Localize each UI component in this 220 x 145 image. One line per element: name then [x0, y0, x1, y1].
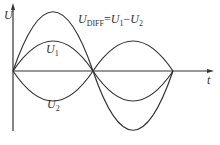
t-axis-label: t — [207, 74, 210, 86]
udiff-equation: UDIFF=U1−U2 — [78, 13, 143, 28]
u2-label: U2 — [47, 98, 60, 113]
u1-label: U1 — [46, 43, 59, 58]
y-axis-label: U — [4, 9, 13, 21]
